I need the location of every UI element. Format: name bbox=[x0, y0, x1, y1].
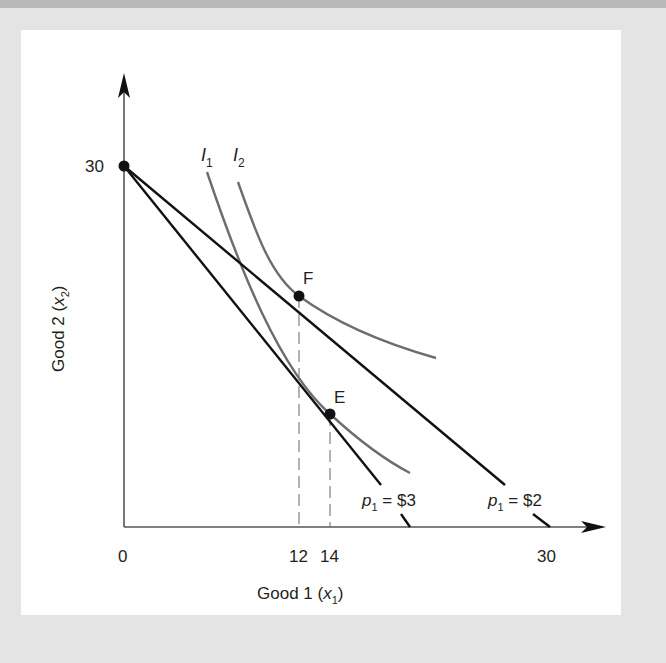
budget-line-p2-tail bbox=[533, 514, 550, 527]
point-e bbox=[325, 409, 336, 420]
axes bbox=[118, 73, 606, 533]
origin-label: 0 bbox=[118, 547, 127, 566]
label-f: F bbox=[303, 269, 313, 288]
budget-line-p3 bbox=[124, 166, 381, 485]
x-tick-30: 30 bbox=[537, 547, 556, 566]
label-budget-p3: p1 = $3 bbox=[361, 491, 416, 513]
y-tick-30: 30 bbox=[85, 157, 104, 176]
point-f bbox=[294, 291, 305, 302]
budget-line-p2 bbox=[124, 166, 505, 485]
x-axis-title: Good 1 (x1) bbox=[257, 584, 343, 606]
budget-line-p3-tail bbox=[401, 514, 410, 527]
label-i2: I2 bbox=[233, 145, 245, 170]
x-tick-14: 14 bbox=[320, 547, 339, 566]
point-intercept bbox=[119, 161, 130, 172]
label-i1: I1 bbox=[201, 145, 213, 170]
indifference-curve-chart: F E I1 I2 p1 = $3 p1 = $2 30 0 12 14 30 … bbox=[0, 0, 666, 663]
indifference-curve-i1 bbox=[207, 172, 410, 473]
indifference-curve-i2 bbox=[238, 182, 436, 358]
y-axis-title: Good 2 (x2) bbox=[49, 286, 71, 372]
label-e: E bbox=[334, 388, 345, 407]
x-tick-12: 12 bbox=[289, 547, 308, 566]
label-budget-p2: p1 = $2 bbox=[487, 491, 542, 513]
